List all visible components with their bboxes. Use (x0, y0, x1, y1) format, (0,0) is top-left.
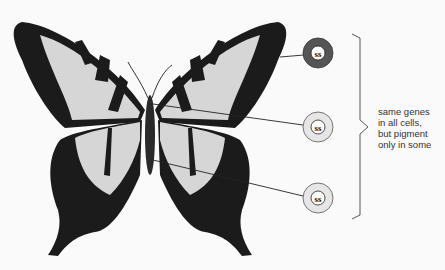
svg-text:ss: ss (314, 194, 322, 204)
caption-line: in all cells, (378, 117, 445, 128)
antennae (128, 62, 172, 98)
bracket (352, 34, 368, 219)
caption-line: only in some (378, 139, 445, 150)
svg-text:ss: ss (314, 123, 322, 133)
caption-line: but pigment (378, 128, 445, 139)
cell-light-1: ss (303, 112, 333, 142)
cell-dark: ss (303, 38, 333, 68)
cell-light-2: ss (303, 183, 333, 213)
butterfly-body (145, 95, 155, 175)
svg-text:ss: ss (314, 49, 322, 59)
butterfly-illustration (14, 22, 287, 256)
caption-line: same genes (378, 106, 445, 117)
caption: same genes in all cells, but pigment onl… (378, 106, 445, 150)
